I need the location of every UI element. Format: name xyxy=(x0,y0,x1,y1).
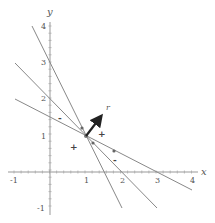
y-tick-label: -1 xyxy=(37,204,45,213)
plot-svg: -1 1 2 3 4 x 4 3 2 1 -1 y r xyxy=(0,0,215,223)
y-tick-label: 4 xyxy=(41,22,46,31)
plus-sign: + xyxy=(98,129,106,139)
plus-sign: + xyxy=(70,142,78,152)
x-axis-label: x xyxy=(201,166,207,177)
shallow-line xyxy=(15,99,192,190)
marker-dot xyxy=(112,149,115,152)
y-tick-label: 3 xyxy=(41,58,46,67)
steep-line xyxy=(32,26,122,208)
y-tick-label: 2 xyxy=(41,94,46,103)
minus-sign: - xyxy=(58,113,62,123)
x-tick-label: 4 xyxy=(190,176,195,185)
x-tick-label: 3 xyxy=(155,176,160,185)
x-tick-label: 2 xyxy=(120,176,125,185)
vector-label: r xyxy=(106,103,111,112)
x-tick-label: 1 xyxy=(84,176,89,185)
coordinate-plane-diagram: -1 1 2 3 4 x 4 3 2 1 -1 y r xyxy=(0,0,215,223)
marker-dot xyxy=(91,141,94,144)
x-tick-label: -1 xyxy=(10,176,18,185)
y-axis: 4 3 2 1 -1 y xyxy=(37,6,53,215)
y-axis-label: y xyxy=(46,6,53,17)
y-tick-label: 1 xyxy=(41,132,46,141)
marker-dot xyxy=(80,126,83,129)
minus-sign: - xyxy=(113,155,117,165)
